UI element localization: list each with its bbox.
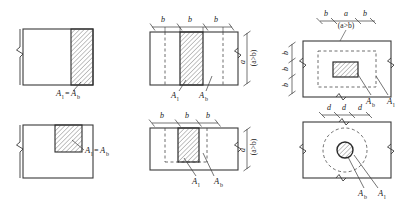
dimension-label-a: a: [238, 148, 247, 152]
label-area-distribution: A: [198, 90, 205, 100]
label-area-distribution: A: [365, 96, 372, 106]
dimension-label-b-1: b: [161, 15, 165, 24]
dimension-label-b-v3: b: [281, 83, 290, 87]
dimension-label-b-2: b: [188, 15, 192, 24]
label-area-loaded: A: [84, 145, 91, 155]
engineering-diagram: A l = A b b b b: [0, 0, 411, 209]
dimension-label-b-3: b: [206, 111, 210, 120]
hatched-region: [180, 32, 203, 85]
dimension-label-b-2: b: [363, 9, 367, 18]
condition-label: (a>b): [338, 21, 355, 30]
label-area-distribution: A: [99, 145, 106, 155]
label-area-distribution: A: [213, 176, 220, 186]
label-area-distribution-sub: b: [205, 96, 208, 102]
dimension-label-a: a: [238, 60, 247, 64]
label-area-distribution-sub: b: [77, 94, 80, 100]
hatched-region: [55, 125, 82, 152]
hatched-region: [333, 62, 358, 77]
label-area-loaded: A: [55, 88, 62, 98]
dimension-label-b-v1: b: [281, 51, 290, 55]
dimension-label-b-3: b: [214, 15, 218, 24]
label-area-loaded: A: [170, 90, 177, 100]
dimension-label-b-1: b: [324, 9, 328, 18]
label-area-loaded: A: [377, 188, 384, 198]
label-equals: =: [65, 89, 70, 98]
label-area-distribution-sub: b: [106, 151, 109, 157]
dimension-label-b-2: b: [185, 111, 189, 120]
label-area-distribution-sub: b: [364, 194, 367, 200]
label-area-loaded: A: [386, 96, 393, 106]
label-area-loaded: A: [191, 176, 198, 186]
label-area-distribution: A: [357, 188, 364, 198]
label-area-distribution-sub: b: [220, 182, 223, 188]
hatched-region: [71, 29, 93, 85]
label-area-distribution: A: [70, 88, 77, 98]
hatched-region: [337, 142, 353, 158]
diagram-canvas: A l = A b b b b: [0, 0, 411, 209]
dimension-label-b-1: b: [160, 111, 164, 120]
hatched-region: [178, 128, 199, 162]
dimension-label-b-v2: b: [281, 67, 290, 71]
dimension-label-a: a: [344, 9, 348, 18]
condition-label: (a>b): [249, 138, 258, 155]
condition-label: (a>b): [249, 49, 258, 66]
label-equals: =: [94, 146, 99, 155]
label-area-distribution-sub: b: [372, 102, 375, 108]
